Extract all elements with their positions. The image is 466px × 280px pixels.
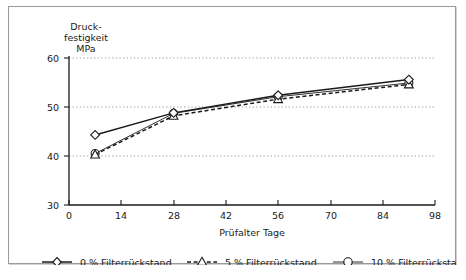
x-tick-label-14: 14 xyxy=(115,210,127,221)
gridlines xyxy=(69,58,435,156)
y-axis: 60 50 40 30 xyxy=(47,53,69,211)
legend-item-0-percent[interactable]: 0 % Filterrückstand xyxy=(42,257,172,266)
chart-figure: 60 50 40 30 Druck- festigkeit MPa xyxy=(8,6,456,264)
x-axis-title: Prüfalter Tage xyxy=(219,227,285,238)
y-axis-title-line-2: festigkeit xyxy=(64,32,108,43)
series-line-circle xyxy=(95,83,409,154)
legend-label-5-percent: 5 % Filterrückstand xyxy=(225,257,317,266)
legend-item-5-percent[interactable]: 5 % Filterrückstand xyxy=(187,257,317,266)
series-10-percent xyxy=(91,79,413,158)
x-tick-label-84: 84 xyxy=(377,210,389,221)
legend-label-10-percent: 10 % Filterrückstand xyxy=(371,257,457,266)
x-tick-label-56: 56 xyxy=(272,210,284,221)
y-tick-label-30: 30 xyxy=(47,200,59,211)
legend-label-0-percent: 0 % Filterrückstand xyxy=(80,257,172,266)
y-tick-label-40: 40 xyxy=(47,151,59,162)
circle-icon xyxy=(344,258,352,265)
y-axis-title: Druck- festigkeit MPa xyxy=(64,21,108,54)
chart-svg: 60 50 40 30 Druck- festigkeit MPa xyxy=(9,7,457,265)
x-tick-label-42: 42 xyxy=(220,210,232,221)
series-line-triangle xyxy=(95,84,409,154)
x-axis: 0 14 28 42 56 70 84 98 Prüfalter Tage xyxy=(66,200,441,238)
series-5-percent xyxy=(91,80,413,158)
x-tick-label-28: 28 xyxy=(168,210,180,221)
plot-area: 60 50 40 30 Druck- festigkeit MPa xyxy=(9,7,457,265)
legend-item-10-percent[interactable]: 10 % Filterrückstand xyxy=(333,257,457,266)
x-tick-label-70: 70 xyxy=(325,210,337,221)
y-axis-title-line-1: Druck- xyxy=(70,21,101,32)
y-axis-title-line-3: MPa xyxy=(76,43,95,54)
chart-legend: 0 % Filterrückstand 5 % Filterrückstand … xyxy=(42,257,457,266)
diamond-icon xyxy=(53,258,61,266)
triangle-icon xyxy=(197,257,206,265)
data-point-diamond xyxy=(91,131,100,140)
x-tick-label-0: 0 xyxy=(66,210,72,221)
x-tick-label-98: 98 xyxy=(429,210,441,221)
y-tick-label-50: 50 xyxy=(47,102,59,113)
y-tick-label-60: 60 xyxy=(47,53,59,64)
